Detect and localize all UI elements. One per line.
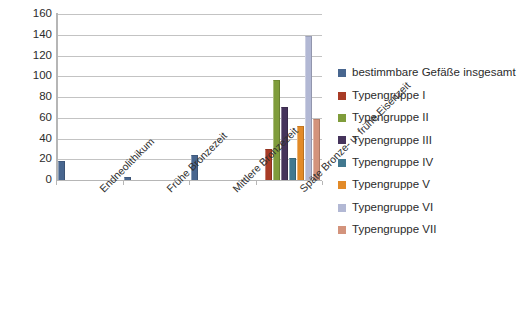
y-tick-label: 20 — [4, 153, 52, 165]
x-category-label: Frühe Bronzezeit — [164, 186, 172, 194]
bar — [281, 107, 288, 180]
legend-item: Typengruppe I — [338, 84, 524, 106]
y-tick-label: 120 — [4, 50, 52, 62]
y-axis-tick-labels: 160140120100806040200 — [0, 0, 52, 327]
legend-label: Typengruppe VI — [352, 202, 433, 214]
bar — [273, 80, 280, 180]
x-category-label: Mittlere Bronzezeit — [230, 186, 238, 194]
legend-label: Typengruppe VII — [352, 224, 436, 236]
bar — [305, 36, 312, 180]
legend-label: Typengruppe IV — [352, 157, 433, 169]
legend-label: Typengruppe II — [352, 112, 429, 124]
y-tick-label: 0 — [4, 174, 52, 186]
y-tick-label: 40 — [4, 133, 52, 145]
legend-label: bestimmbare Gefäße insgesamt — [352, 67, 516, 79]
legend-swatch — [338, 92, 346, 100]
legend-swatch — [338, 204, 346, 212]
legend-swatch — [338, 114, 346, 122]
x-category-label: Späte Bronze- u. frühe Eisenzeit — [297, 186, 305, 194]
legend-label: Typengruppe I — [352, 90, 426, 102]
bar-chart: 160140120100806040200 EndneolithikumFrüh… — [0, 0, 526, 327]
x-tick — [56, 181, 57, 185]
legend-item: Typengruppe VII — [338, 219, 524, 241]
legend-label: Typengruppe III — [352, 135, 432, 147]
legend-swatch — [338, 159, 346, 167]
legend-item: Typengruppe VI — [338, 196, 524, 218]
legend-swatch — [338, 136, 346, 144]
legend-item: Typengruppe V — [338, 174, 524, 196]
bar-group — [256, 14, 323, 180]
x-tick — [322, 181, 323, 185]
y-tick-label: 100 — [4, 70, 52, 82]
legend-item: Typengruppe III — [338, 129, 524, 151]
y-tick-label: 60 — [4, 112, 52, 124]
bar — [297, 126, 304, 180]
y-tick-label: 140 — [4, 29, 52, 41]
legend-swatch — [338, 226, 346, 234]
x-category-label: Endneolithikum — [97, 186, 105, 194]
bar-group — [189, 14, 256, 180]
y-tick-label: 160 — [4, 8, 52, 20]
legend-item: Typengruppe IV — [338, 152, 524, 174]
bar — [265, 149, 272, 180]
bar — [58, 161, 65, 180]
x-tick — [123, 181, 124, 185]
legend-swatch — [338, 181, 346, 189]
bar-group — [123, 14, 190, 180]
legend-label: Typengruppe V — [352, 179, 430, 191]
x-tick — [256, 181, 257, 185]
bar — [289, 158, 296, 180]
x-tick — [189, 181, 190, 185]
legend-item: bestimmbare Gefäße insgesamt — [338, 62, 524, 84]
bar-group — [56, 14, 123, 180]
y-axis-line — [56, 13, 58, 181]
legend-swatch — [338, 69, 346, 77]
y-tick-label: 80 — [4, 91, 52, 103]
bar — [191, 155, 198, 180]
plot-area — [56, 14, 322, 180]
legend-item: Typengruppe II — [338, 107, 524, 129]
chart-legend: bestimmbare Gefäße insgesamtTypengruppe … — [338, 62, 524, 241]
bar — [313, 119, 320, 180]
